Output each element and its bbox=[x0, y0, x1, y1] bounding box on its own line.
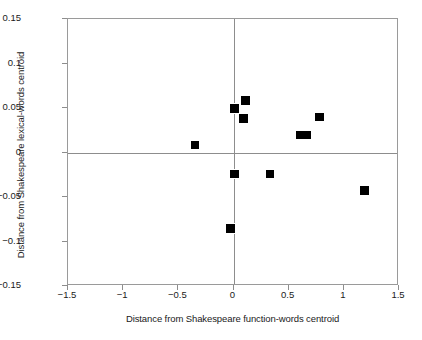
data-point bbox=[265, 169, 275, 179]
data-point bbox=[225, 223, 236, 234]
x-tick-mark bbox=[122, 285, 123, 290]
x-tick-label: 1.5 bbox=[368, 289, 422, 300]
data-point bbox=[190, 140, 200, 150]
x-tick-label: 0.5 bbox=[258, 289, 318, 300]
data-point bbox=[229, 103, 240, 114]
x-tick-mark bbox=[343, 285, 344, 290]
y-tick-label: −0.1 bbox=[0, 236, 21, 246]
scatter-plot-figure: Distance from Shakespeare lexical-words … bbox=[0, 0, 422, 340]
data-point bbox=[314, 112, 325, 122]
plot-area bbox=[67, 18, 398, 285]
x-tick-mark bbox=[398, 285, 399, 290]
data-point bbox=[229, 169, 240, 179]
y-tick-label: −0.15 bbox=[0, 280, 21, 290]
x-tick-mark bbox=[233, 285, 234, 290]
x-tick-label: −0.5 bbox=[147, 289, 207, 300]
y-tick-label: −0.05 bbox=[0, 191, 21, 201]
data-point bbox=[238, 113, 249, 124]
y-tick-label: 0.05 bbox=[0, 102, 21, 112]
data-point bbox=[240, 95, 251, 106]
x-tick-label: −1.5 bbox=[37, 289, 97, 300]
data-point bbox=[295, 130, 312, 140]
y-tick-label: 0.1 bbox=[0, 58, 21, 68]
x-tick-label: −1 bbox=[92, 289, 152, 300]
x-axis-label: Distance from Shakespeare function-words… bbox=[67, 313, 398, 324]
y-tick-label: 0 bbox=[0, 147, 21, 157]
x-tick-label: 0 bbox=[203, 289, 263, 300]
x-tick-mark bbox=[177, 285, 178, 290]
data-point bbox=[359, 185, 370, 196]
x-axis-zero-line bbox=[68, 153, 397, 154]
x-tick-label: 1 bbox=[313, 289, 373, 300]
y-tick-label: 0.15 bbox=[0, 13, 21, 23]
y-axis-zero-line bbox=[234, 19, 235, 284]
x-tick-mark bbox=[288, 285, 289, 290]
x-tick-mark bbox=[67, 285, 68, 290]
